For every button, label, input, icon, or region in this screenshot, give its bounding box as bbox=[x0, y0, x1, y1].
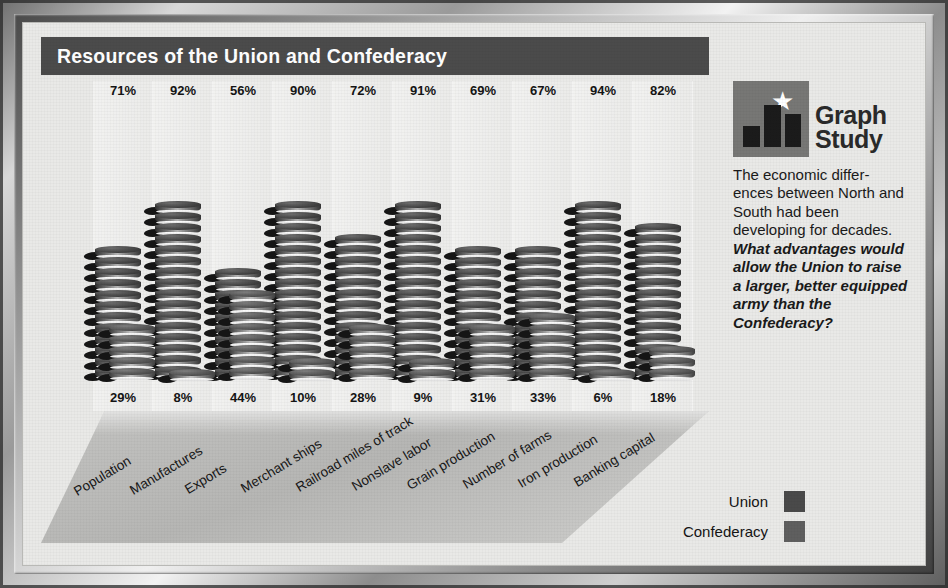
confederacy-value-label: 6% bbox=[573, 390, 633, 405]
coin bbox=[589, 369, 635, 381]
chart-platform: PopulationManufacturesExportsMerchant sh… bbox=[41, 411, 709, 543]
logo-text: Graph Study bbox=[815, 81, 887, 152]
coin bbox=[109, 368, 155, 380]
logo-graphic: ★ bbox=[733, 81, 809, 157]
sidebar-intro-text: The economic differ-ences between North … bbox=[733, 166, 904, 238]
page-title: Resources of the Union and Confederacy bbox=[41, 45, 447, 68]
chart-legend: Union Confederacy bbox=[615, 491, 805, 551]
logo-bar-3 bbox=[785, 114, 801, 147]
confederacy-value-label: 28% bbox=[333, 390, 393, 405]
title-bar: Resources of the Union and Confederacy bbox=[41, 37, 709, 75]
union-coin-stack bbox=[275, 202, 321, 378]
union-coin-stack bbox=[395, 202, 441, 378]
chart-column: 91%9% bbox=[393, 81, 453, 411]
confederacy-value-label: 31% bbox=[453, 390, 513, 405]
confederacy-coin-stack bbox=[169, 370, 215, 381]
chart-column: 69%31% bbox=[453, 81, 513, 411]
confederacy-coin-stack bbox=[529, 314, 575, 380]
union-value-label: 72% bbox=[333, 83, 393, 98]
chart-column: 82%18% bbox=[633, 81, 693, 411]
confederacy-coin-stack bbox=[409, 359, 455, 381]
confederacy-coin-stack bbox=[289, 359, 335, 381]
union-value-label: 92% bbox=[153, 83, 213, 98]
confederacy-value-label: 18% bbox=[633, 390, 693, 405]
union-value-label: 94% bbox=[573, 83, 633, 98]
legend-label-union: Union bbox=[729, 493, 768, 510]
legend-label-confederacy: Confederacy bbox=[683, 523, 768, 540]
logo-text-line2: Study bbox=[815, 127, 887, 151]
union-value-label: 90% bbox=[273, 83, 333, 98]
coin-stack-chart: 71%29%92%8%56%44%90%10%72%28%91%9%69%31%… bbox=[41, 81, 709, 411]
legend-swatch-union bbox=[784, 491, 805, 512]
union-value-label: 71% bbox=[93, 83, 153, 98]
confederacy-coin-stack bbox=[649, 347, 695, 380]
union-value-label: 67% bbox=[513, 83, 573, 98]
coin bbox=[649, 368, 695, 380]
confederacy-value-label: 44% bbox=[213, 390, 273, 405]
confederacy-coin-stack bbox=[349, 325, 395, 380]
coin bbox=[289, 369, 335, 381]
confederacy-value-label: 9% bbox=[393, 390, 453, 405]
confederacy-value-label: 29% bbox=[93, 390, 153, 405]
confederacy-value-label: 10% bbox=[273, 390, 333, 405]
graph-study-sidebar: ★ Graph Study The economic differ-ences … bbox=[733, 81, 909, 551]
union-coin-stack bbox=[575, 202, 621, 378]
confederacy-value-label: 8% bbox=[153, 390, 213, 405]
sidebar-body-text: The economic differ-ences between North … bbox=[733, 166, 909, 332]
union-value-label: 82% bbox=[633, 83, 693, 98]
legend-item-union: Union bbox=[615, 491, 805, 512]
union-value-label: 69% bbox=[453, 83, 513, 98]
coin bbox=[469, 368, 515, 380]
confederacy-coin-stack bbox=[229, 291, 275, 379]
sidebar-question-text: What advantages would allow the Union to… bbox=[733, 240, 907, 331]
coin bbox=[409, 369, 455, 381]
union-value-label: 56% bbox=[213, 83, 273, 98]
confederacy-coin-stack bbox=[109, 325, 155, 380]
logo-bar-2 bbox=[764, 105, 781, 147]
confederacy-value-label: 33% bbox=[513, 390, 573, 405]
union-value-label: 91% bbox=[393, 83, 453, 98]
legend-item-confederacy: Confederacy bbox=[615, 521, 805, 542]
confederacy-coin-stack bbox=[589, 370, 635, 381]
confederacy-coin-stack bbox=[469, 325, 515, 380]
coin bbox=[349, 368, 395, 380]
infographic-frame: Resources of the Union and Confederacy 7… bbox=[0, 0, 948, 588]
coin bbox=[229, 367, 275, 379]
union-coin-stack bbox=[155, 202, 201, 378]
coin bbox=[529, 368, 575, 380]
legend-swatch-confederacy bbox=[784, 521, 805, 542]
graph-study-logo: ★ Graph Study bbox=[733, 81, 909, 157]
chart-column: 92%8% bbox=[153, 81, 213, 411]
coin bbox=[169, 369, 215, 381]
logo-bar-1 bbox=[743, 126, 760, 147]
logo-text-line1: Graph bbox=[815, 103, 887, 127]
infographic-panel: Resources of the Union and Confederacy 7… bbox=[22, 22, 926, 566]
